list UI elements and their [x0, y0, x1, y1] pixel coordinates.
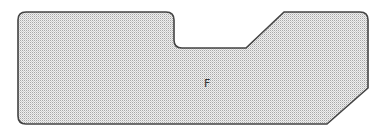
shape-f-outline — [18, 12, 368, 124]
shape-label: F — [204, 77, 210, 90]
diagram-canvas: F — [0, 0, 388, 136]
